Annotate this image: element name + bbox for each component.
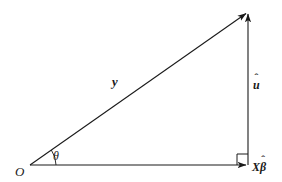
angle-theta-label: θ — [53, 150, 59, 162]
u-hat-accent: ˆ — [254, 72, 258, 83]
u-hat-glyph-stack: ˆu — [253, 79, 260, 91]
beta-hat-accent: ˆ — [261, 154, 265, 165]
vector-u-hat-label: ˆu — [253, 79, 260, 91]
x-base-glyph: X — [252, 160, 260, 174]
regression-geometry-diagram: O θ y ˆu Xˆβ — [0, 0, 282, 182]
origin-label: O — [15, 165, 24, 178]
beta-hat-glyph-stack: ˆβ — [260, 161, 266, 173]
right-angle-marker-icon — [237, 154, 248, 165]
vector-y-label: y — [112, 75, 118, 88]
vector-diagram-canvas — [0, 0, 282, 182]
vector-y-line — [30, 14, 246, 166]
vector-x-beta-hat-label: Xˆβ — [252, 161, 266, 173]
